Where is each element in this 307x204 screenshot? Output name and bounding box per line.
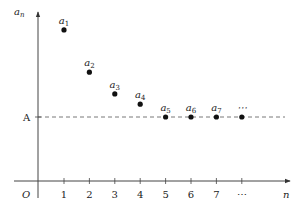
x-tick-label: 7 <box>213 189 219 200</box>
data-point <box>138 102 143 107</box>
x-tick-label: 4 <box>137 189 143 200</box>
x-tick-label: ⋯ <box>237 189 247 200</box>
data-point <box>163 114 168 119</box>
data-point-label: a5 <box>160 102 170 115</box>
data-points: a1a2a3a4a5a6a7⋯ <box>59 15 247 120</box>
origin-label: O <box>22 189 30 200</box>
y-axis-label: an <box>14 6 25 19</box>
data-point-label: ⋯ <box>237 102 247 113</box>
data-point-label: a3 <box>110 79 120 92</box>
data-point <box>214 114 219 119</box>
data-point-label: a1 <box>59 15 69 28</box>
x-tick-label: 6 <box>188 189 194 200</box>
data-point <box>87 70 92 75</box>
data-point <box>188 114 193 119</box>
data-point <box>61 27 66 32</box>
x-tick-label: 5 <box>162 189 168 200</box>
data-point-label: a2 <box>84 57 94 70</box>
x-tick-label: 2 <box>86 189 92 200</box>
data-point-label: a6 <box>186 102 197 115</box>
data-point <box>239 114 244 119</box>
reference-line-label: A <box>22 112 31 123</box>
data-point-label: a7 <box>211 102 221 115</box>
x-tick-label: 1 <box>61 189 67 200</box>
x-axis-label: n <box>283 189 289 200</box>
sequence-chart: an n O A 1234567⋯ a1a2a3a4a5a6a7⋯ <box>0 0 307 204</box>
x-tick-label: 3 <box>112 189 118 200</box>
data-point-label: a4 <box>135 89 146 102</box>
y-axis-label-sub: n <box>20 11 25 19</box>
data-point <box>112 91 117 96</box>
